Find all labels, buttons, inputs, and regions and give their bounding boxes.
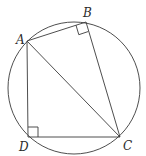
label-b: B: [82, 6, 92, 20]
segment-da: [27, 41, 28, 137]
label-c: C: [123, 139, 132, 153]
label-d: D: [18, 140, 29, 154]
segment-ab: [27, 22, 86, 41]
cyclic-quadrilateral-diagram: A B C D: [0, 0, 146, 156]
right-angle-marker-d: [28, 127, 38, 137]
right-angle-marker-b: [76, 25, 88, 35]
label-a: A: [15, 33, 25, 47]
